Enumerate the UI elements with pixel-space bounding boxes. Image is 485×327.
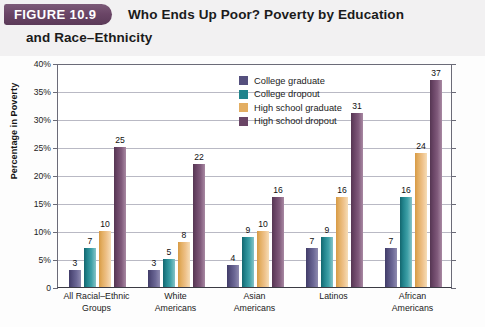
- y-axis-tick-label: 20%: [34, 171, 51, 181]
- bar-value-label: 16: [337, 185, 347, 195]
- bar-group: 371025: [58, 64, 137, 287]
- bar: 8: [178, 242, 190, 287]
- bar: 10: [257, 231, 269, 287]
- bar-fill: [336, 197, 348, 287]
- bar-value-label: 22: [194, 152, 204, 162]
- y-axis-tick-label: 5%: [39, 255, 51, 265]
- bar: 5: [163, 259, 175, 287]
- bar: 16: [400, 197, 412, 287]
- legend-swatch-icon: [239, 117, 248, 126]
- bar-fill: [69, 270, 81, 287]
- x-axis-label-line: African: [373, 291, 452, 303]
- x-axis-label-line: Americans: [215, 303, 294, 315]
- x-axis-label: Latinos: [294, 291, 373, 303]
- bar: 16: [272, 197, 284, 287]
- y-axis-tick-label: 40%: [34, 59, 51, 69]
- bar: 9: [242, 237, 254, 287]
- legend-swatch-icon: [239, 76, 248, 85]
- bar-value-label: 9: [246, 225, 251, 235]
- bar-fill: [321, 237, 333, 287]
- bar-fill: [242, 237, 254, 287]
- x-axis-label: AfricanAmericans: [373, 291, 452, 314]
- y-axis-tick-label: 10%: [34, 227, 51, 237]
- x-axis-label-line: Americans: [373, 303, 452, 315]
- bar-fill: [351, 113, 363, 287]
- bar: 9: [321, 237, 333, 287]
- x-axis-label-line: All Racial–Ethnic: [57, 291, 136, 303]
- bar-fill: [178, 242, 190, 287]
- bar-fill: [84, 248, 96, 287]
- bar-value-label: 24: [416, 141, 426, 151]
- bar: 37: [430, 80, 442, 287]
- axis-tick: [53, 288, 58, 289]
- figure-title-line-1: Who Ends Up Poor? Poverty by Education: [128, 4, 480, 25]
- bar-group: 35822: [137, 64, 216, 287]
- bar-value-label: 16: [273, 185, 283, 195]
- x-axis-label: AsianAmericans: [215, 291, 294, 314]
- y-axis-tick-label: 25%: [34, 143, 51, 153]
- bar-value-label: 10: [258, 219, 268, 229]
- bar-fill: [193, 164, 205, 287]
- chart-legend: College graduateCollege dropoutHigh scho…: [239, 74, 369, 128]
- bar-value-label: 3: [73, 258, 78, 268]
- bar-fill: [400, 197, 412, 287]
- bar: 31: [351, 113, 363, 287]
- chart-container: Percentage in Poverty 05%10%15%20%25%30%…: [0, 56, 485, 327]
- legend-item: College graduate: [239, 74, 369, 88]
- bar-fill: [306, 248, 318, 287]
- bar-value-label: 16: [401, 185, 411, 195]
- x-axis-label-line: Asian: [215, 291, 294, 303]
- x-axis-label-line: White: [136, 291, 215, 303]
- legend-label: High school graduate: [254, 103, 342, 113]
- bar-value-label: 10: [100, 219, 110, 229]
- legend-item: High school graduate: [239, 101, 369, 115]
- x-axis-label-line: Groups: [57, 303, 136, 315]
- bar: 7: [84, 248, 96, 287]
- bar: 10: [99, 231, 111, 287]
- x-axis-category-labels: All Racial–EthnicGroupsWhiteAmericansAsi…: [57, 291, 452, 327]
- bar-value-label: 37: [431, 68, 441, 78]
- bar: 25: [114, 147, 126, 287]
- bar-value-label: 9: [325, 225, 330, 235]
- bar-value-label: 4: [231, 253, 236, 263]
- legend-swatch-icon: [239, 103, 248, 112]
- figure-panel: FIGURE 10.9 Who Ends Up Poor? Poverty by…: [0, 0, 485, 327]
- legend-item: College dropout: [239, 88, 369, 102]
- bar-value-label: 7: [88, 236, 93, 246]
- bar-value-label: 5: [167, 247, 172, 257]
- bar-fill: [227, 265, 239, 287]
- bar-value-label: 25: [115, 135, 125, 145]
- legend-label: College dropout: [254, 89, 320, 99]
- bar-value-label: 7: [310, 236, 315, 246]
- bar: 24: [415, 153, 427, 287]
- bar-fill: [114, 147, 126, 287]
- x-axis-label-line: Americans: [136, 303, 215, 315]
- bar-fill: [163, 259, 175, 287]
- bar-fill: [415, 153, 427, 287]
- bar-fill: [99, 231, 111, 287]
- y-axis-tick-labels: 05%10%15%20%25%30%35%40%: [0, 64, 55, 288]
- axis-tick: [451, 288, 456, 289]
- legend-item: High school dropout: [239, 115, 369, 129]
- y-axis-tick-label: 0: [46, 283, 51, 293]
- bar-fill: [257, 231, 269, 287]
- y-axis-tick-label: 15%: [34, 199, 51, 209]
- x-axis-label-line: Latinos: [294, 291, 373, 303]
- x-axis-label: All Racial–EthnicGroups: [57, 291, 136, 314]
- bar: 7: [306, 248, 318, 287]
- figure-number-tab: FIGURE 10.9: [4, 4, 112, 25]
- y-axis-tick-label: 30%: [34, 115, 51, 125]
- bar: 7: [385, 248, 397, 287]
- bar: 4: [227, 265, 239, 287]
- bar-fill: [148, 270, 160, 287]
- bar: 3: [69, 270, 81, 287]
- bar-value-label: 3: [152, 258, 157, 268]
- y-axis-tick-label: 35%: [34, 87, 51, 97]
- legend-label: High school dropout: [254, 116, 337, 126]
- bar-fill: [430, 80, 442, 287]
- bar-value-label: 8: [182, 230, 187, 240]
- bar-fill: [385, 248, 397, 287]
- bar-group: 7162437: [374, 64, 453, 287]
- legend-label: College graduate: [254, 76, 325, 86]
- plot-area: 371025358224910167916317162437 College g…: [57, 64, 452, 288]
